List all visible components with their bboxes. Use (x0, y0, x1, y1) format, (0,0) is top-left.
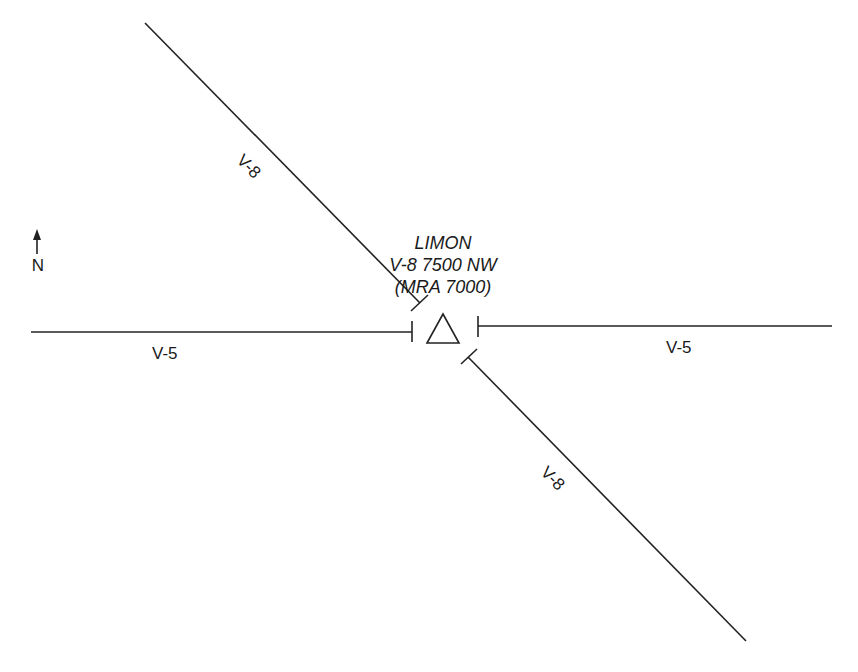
north-label: N (26, 256, 50, 276)
airway-v8-southeast (461, 349, 746, 641)
station-altitude: V-8 7500 NW (368, 254, 518, 276)
airway-label-v5-east: V-5 (666, 339, 692, 356)
airway-label-v5-west: V-5 (152, 345, 178, 362)
airway-v5-west (31, 321, 412, 342)
airway-v5-east (478, 316, 832, 337)
changeover-tick (461, 349, 477, 364)
station-mra: (MRA 7000) (368, 276, 518, 298)
airway-diagram (0, 0, 858, 672)
triangle-icon (427, 314, 459, 343)
station-name: LIMON (368, 232, 518, 254)
north-indicator: N (26, 236, 50, 276)
station-label: LIMON V-8 7500 NW (MRA 7000) (368, 232, 518, 298)
